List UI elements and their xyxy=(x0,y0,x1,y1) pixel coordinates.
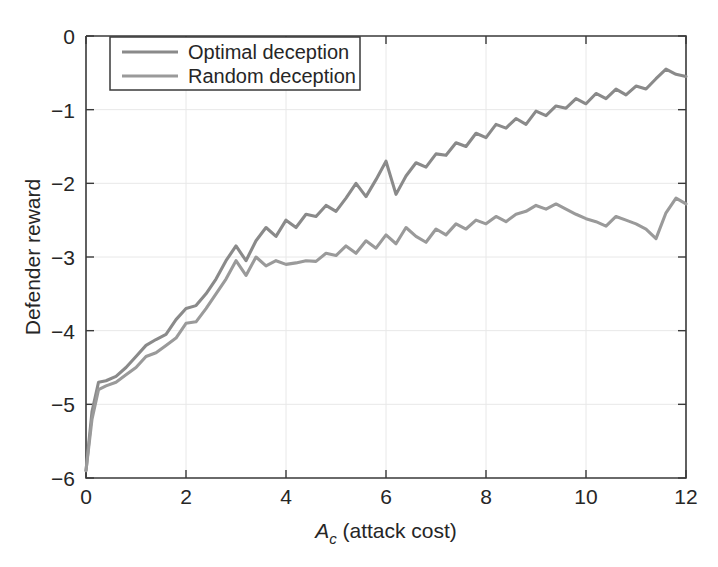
y-tick-label: 0 xyxy=(63,25,75,48)
chart-figure: 0246810120−1−2−3−4−5−6 Optimal deception… xyxy=(0,0,718,567)
y-axis-title: Defender reward xyxy=(21,179,44,335)
x-tick-label: 6 xyxy=(380,485,392,508)
x-tick-label: 10 xyxy=(574,485,597,508)
legend-label-optimal-deception: Optimal deception xyxy=(188,41,349,63)
chart-legend: Optimal deception Random deception xyxy=(110,37,360,90)
x-axis-title-rest: (attack cost) xyxy=(337,519,457,542)
x-axis-title-symbol: A xyxy=(313,519,329,542)
y-tick-label: −2 xyxy=(51,172,75,195)
x-tick-label: 8 xyxy=(480,485,492,508)
x-tick-label: 2 xyxy=(180,485,192,508)
y-tick-label: −1 xyxy=(51,99,75,122)
y-tick-label: −5 xyxy=(51,393,75,416)
x-tick-label: 12 xyxy=(674,485,697,508)
x-tick-label: 0 xyxy=(80,485,92,508)
defender-reward-line-chart: 0246810120−1−2−3−4−5−6 Optimal deception… xyxy=(0,0,718,567)
legend-label-random-deception: Random deception xyxy=(188,65,356,87)
y-tick-label: −6 xyxy=(51,467,75,490)
x-tick-label: 4 xyxy=(280,485,292,508)
y-tick-label: −4 xyxy=(51,320,75,343)
y-tick-label: −3 xyxy=(51,246,75,269)
